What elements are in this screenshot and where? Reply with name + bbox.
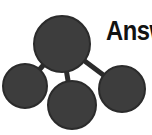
node-left <box>3 64 47 108</box>
node-bottom <box>48 81 96 129</box>
node-right <box>99 66 145 112</box>
network-node-diagram <box>0 0 152 135</box>
logo-banner: Answ <box>0 0 152 135</box>
graph-nodes <box>3 16 145 129</box>
node-center <box>34 16 90 72</box>
